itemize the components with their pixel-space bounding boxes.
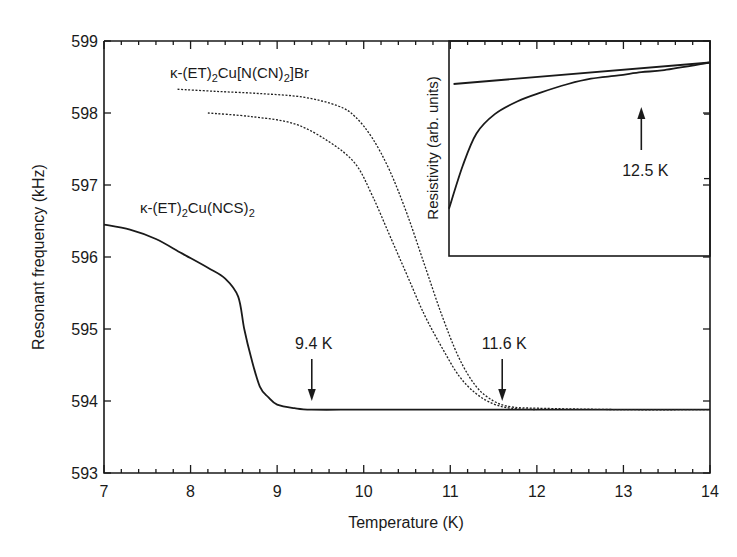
y-axis-ticks: 593594595596597598599 (71, 33, 710, 482)
series-layer (104, 89, 710, 410)
x-tick-label: 11 (442, 483, 459, 500)
inset-resistivity-plot (449, 41, 710, 256)
annotation-11-6k: 11.6 K (482, 335, 527, 352)
y-tick-label: 597 (71, 177, 98, 194)
up-arrow-icon (637, 107, 645, 150)
y-tick-label: 593 (71, 465, 98, 482)
x-tick-label: 8 (186, 483, 195, 500)
y-tick-label: 595 (71, 321, 98, 338)
y-tick-label: 598 (71, 105, 98, 122)
resonant-frequency-chart: 7891011121314 593594595596597598599 9.4 … (0, 0, 737, 557)
x-axis-ticks: 7891011121314 (100, 41, 719, 500)
series-line-1 (178, 89, 710, 410)
annotation-9-4k: 9.4 K (295, 335, 333, 352)
y-tick-label: 596 (71, 249, 98, 266)
x-axis-label: Temperature (K) (348, 514, 464, 531)
series-line-0 (104, 225, 710, 410)
x-tick-label: 14 (701, 483, 719, 500)
inset-series-0 (449, 63, 710, 209)
x-tick-label: 12 (528, 483, 546, 500)
x-tick-label: 9 (273, 483, 282, 500)
y-tick-label: 594 (71, 393, 98, 410)
x-tick-label: 7 (100, 483, 109, 500)
down-arrow-icon (308, 359, 316, 401)
chart-canvas: 7891011121314 593594595596597598599 9.4 … (0, 0, 737, 557)
x-tick-label: 13 (615, 483, 633, 500)
inset-y-axis-label: Resistivity (arb. units) (424, 76, 441, 219)
series-label-br: κ-(ET)2Cu[N(CN)2]Br (170, 64, 309, 84)
y-axis-label: Resonant frequency (kHz) (30, 164, 47, 350)
annotation-12-5k: 12.5 K (622, 162, 669, 179)
annotations: 9.4 K11.6 K12.5 K (295, 107, 669, 401)
x-tick-label: 10 (355, 483, 373, 500)
series-line-2 (208, 113, 537, 410)
series-label-ncs: κ-(ET)2Cu(NCS)2 (140, 199, 255, 219)
plot-border (104, 41, 710, 473)
plot-frame (104, 41, 710, 473)
y-tick-label: 599 (71, 33, 98, 50)
down-arrow-icon (498, 359, 506, 401)
